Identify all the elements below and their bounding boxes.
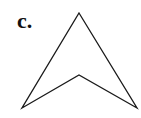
arrowhead-shape (0, 0, 141, 118)
arrowhead-polygon (22, 13, 137, 108)
